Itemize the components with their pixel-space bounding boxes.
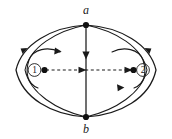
node-a: a xyxy=(83,3,89,28)
horizontal-axis-arrowhead-center xyxy=(79,67,87,74)
region-1-marker: 1 xyxy=(28,64,48,77)
node-b-label: b xyxy=(83,122,89,136)
flow-diagram-svg: a b 1 2 xyxy=(0,0,172,139)
swirl-left-arrowhead xyxy=(54,48,61,55)
inner-arc-right xyxy=(86,25,147,117)
region-1-label: 1 xyxy=(32,65,37,75)
region-2-dot xyxy=(130,67,136,73)
figure-container: a b 1 2 xyxy=(0,0,172,139)
swirl-right-arrowhead xyxy=(117,84,124,91)
node-a-label: a xyxy=(83,3,89,17)
region-2-label: 2 xyxy=(141,65,146,75)
region-1-dot xyxy=(41,67,47,73)
horizontal-axis xyxy=(46,67,133,74)
node-b: b xyxy=(83,114,89,136)
node-b-dot xyxy=(83,114,89,120)
node-a-dot xyxy=(83,22,89,28)
inner-arc-right-path xyxy=(86,25,147,117)
vertical-edge-arrowhead xyxy=(82,52,89,60)
